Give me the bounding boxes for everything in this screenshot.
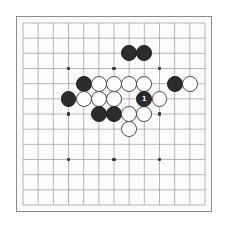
stone-black[interactable]	[76, 76, 92, 92]
stone-white[interactable]	[152, 91, 168, 107]
stone-white[interactable]	[121, 121, 137, 137]
star-point	[158, 112, 162, 116]
stone-white[interactable]	[76, 91, 92, 107]
grid-surface[interactable]: 1	[17, 17, 211, 211]
stone-white[interactable]	[106, 76, 122, 92]
stone-black[interactable]	[167, 76, 183, 92]
star-point	[67, 112, 71, 116]
stone-white[interactable]	[182, 76, 198, 92]
stone-black[interactable]	[106, 106, 122, 122]
star-point	[112, 158, 116, 162]
goban[interactable]: 1	[16, 16, 212, 212]
stone-white[interactable]	[121, 76, 137, 92]
stone-black[interactable]	[61, 91, 77, 107]
move-number-label: 1	[137, 92, 151, 106]
stone-white[interactable]	[91, 76, 107, 92]
stone-white[interactable]	[121, 106, 137, 122]
stone-white[interactable]	[106, 91, 122, 107]
stone-white[interactable]	[91, 91, 107, 107]
stone-white[interactable]	[136, 76, 152, 92]
stone-black-last-move[interactable]: 1	[136, 91, 152, 107]
stone-white[interactable]	[136, 106, 152, 122]
go-board-figure: 1	[0, 0, 227, 228]
star-point	[112, 67, 116, 71]
stone-black[interactable]	[91, 106, 107, 122]
